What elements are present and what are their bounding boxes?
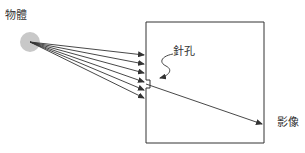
- object-label: 物體: [5, 10, 27, 22]
- pinhole-pointer: [160, 54, 173, 78]
- camera-box: [146, 22, 264, 143]
- image-label: 影像: [277, 117, 299, 129]
- pinhole-diagram: [0, 0, 305, 153]
- light-rays: [30, 42, 144, 98]
- pinhole-label: 針孔: [173, 46, 195, 58]
- image-ray: [146, 84, 262, 124]
